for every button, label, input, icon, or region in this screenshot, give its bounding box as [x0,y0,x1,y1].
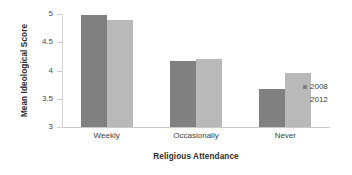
legend-item: 2008 [303,80,328,93]
x-axis-category-label: Occasionally [151,131,240,140]
y-axis-tick: 3 [57,127,62,128]
legend: 20082012 [303,80,328,106]
bar [81,15,107,127]
legend-label: 2008 [310,82,328,91]
bar [170,61,196,127]
legend-swatch-icon [303,98,307,102]
bar [259,89,285,127]
legend-label: 2012 [310,95,328,104]
plot-area [62,14,330,127]
x-axis-title: Religious Attendance [62,152,330,161]
x-axis-line [62,127,330,128]
y-axis-tick-label: 4 [49,66,53,75]
x-axis-category-label: Weekly [62,131,151,140]
legend-swatch-icon [303,85,307,89]
bar [196,59,222,127]
bar-chart: Mean Ideological Score 33.544.55 WeeklyO… [0,0,352,175]
y-axis-tick-label: 3.5 [42,94,53,103]
y-axis-tick-label: 4.5 [42,37,53,46]
y-axis-title: Mean Ideological Score [20,6,29,136]
bar [107,20,133,127]
x-axis-category-label: Never [241,131,330,140]
legend-item: 2012 [303,93,328,106]
y-axis-tick-label: 3 [49,122,53,131]
y-axis-tick-label: 5 [49,9,53,18]
